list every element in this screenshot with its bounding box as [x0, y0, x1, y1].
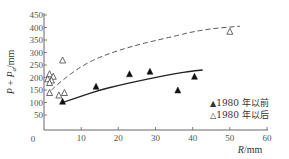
y-tick-label: 100	[30, 98, 44, 108]
x-tick-label: 50	[225, 133, 235, 143]
y-tick-label: 50	[34, 110, 44, 120]
filled-triangle-point	[147, 68, 153, 74]
open-triangle-point	[227, 28, 233, 34]
open-triangle-point	[60, 57, 66, 63]
y-tick-label: 150	[30, 85, 44, 95]
fit-curve-after-1980	[51, 26, 239, 90]
filled-triangle-point	[175, 87, 181, 93]
y-tick-label: 250	[30, 60, 44, 70]
y-tick-label: 450	[30, 10, 44, 20]
y-axis-title: P + Pa/mm	[5, 49, 18, 95]
legend-item-after-1980: △1980 年以后	[210, 109, 269, 120]
x-axis-title: R/mm	[237, 144, 263, 155]
open-triangle-point	[56, 92, 62, 98]
y-tick-label: 300	[30, 48, 44, 58]
y-tick-label: 400	[30, 23, 44, 33]
filled-triangle-point	[192, 73, 198, 79]
x-tick-label: 30	[151, 133, 161, 143]
axes: 501001502002503003504004500102030405060	[30, 10, 273, 144]
y-tick-label: 200	[30, 73, 44, 83]
legend-item-before-1980: ▲1980 年以前	[210, 97, 269, 108]
legend: ▲1980 年以前 △1980 年以后	[210, 97, 269, 120]
fit-curve-before-1980	[63, 70, 203, 103]
filled-triangle-point	[93, 83, 99, 89]
open-triangle-point	[47, 90, 53, 96]
data-points	[45, 28, 233, 104]
chart: 501001502002503003504004500102030405060 …	[0, 0, 289, 159]
fit-curves	[51, 26, 239, 102]
x-tick-label: 60	[263, 133, 273, 143]
open-triangle-point	[61, 90, 67, 96]
x-tick-label: 10	[77, 133, 87, 143]
origin-tick-label: 0	[31, 134, 36, 144]
x-tick-label: 20	[114, 133, 124, 143]
y-tick-label: 350	[30, 35, 44, 45]
filled-triangle-point	[126, 71, 132, 77]
x-tick-label: 40	[188, 133, 198, 143]
